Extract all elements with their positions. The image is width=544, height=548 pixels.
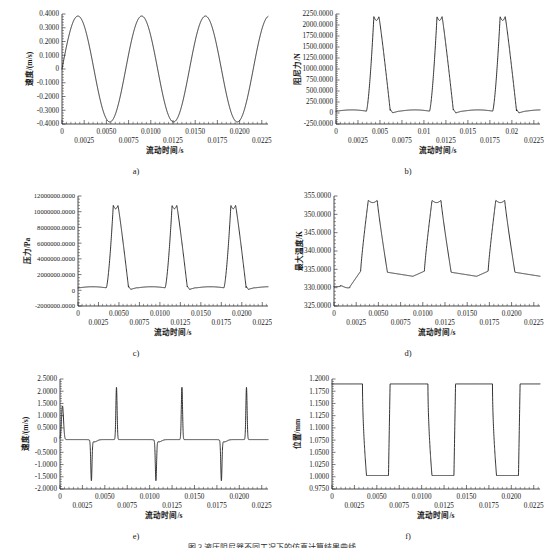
svg-text:0.0075: 0.0075 — [117, 502, 137, 510]
svg-text:0.0125: 0.0125 — [435, 319, 455, 327]
svg-text:1.0500: 1.0500 — [309, 449, 329, 457]
svg-text:流动时间/s: 流动时间/s — [146, 145, 183, 155]
svg-text:0.0075: 0.0075 — [130, 319, 150, 327]
svg-text:0.0075: 0.0075 — [392, 137, 412, 145]
data-curve-f — [332, 384, 540, 476]
svg-text:阻尼力/N: 阻尼力/N — [292, 53, 302, 85]
svg-text:0: 0 — [76, 310, 80, 318]
svg-text:0.0100: 0.0100 — [140, 493, 160, 501]
svg-text:流动时间/s: 流动时间/s — [417, 510, 454, 520]
svg-text:-0.2000: -0.2000 — [37, 93, 60, 101]
svg-text:1750.0000: 1750.0000 — [302, 32, 333, 40]
svg-text:0.5000: 0.5000 — [37, 424, 57, 432]
svg-text:0: 0 — [332, 310, 336, 318]
svg-text:0: 0 — [58, 493, 62, 501]
svg-text:355.0000: 355.0000 — [304, 192, 331, 200]
subplot-a: 0.40000.30000.20000.10000-0.1000-0.2000-… — [0, 0, 272, 183]
svg-text:12000000.0000: 12000000.0000 — [34, 192, 76, 199]
subplot-c-plot: 12000000.000010000000.00008000000.000060… — [0, 180, 272, 363]
svg-text:345.0000: 345.0000 — [304, 229, 331, 237]
svg-text:10000000.0000: 10000000.0000 — [34, 208, 76, 215]
svg-text:-0.5000: -0.5000 — [35, 449, 58, 457]
svg-text:1.1500: 1.1500 — [309, 400, 329, 408]
data-curve-c — [78, 205, 268, 289]
subplot-a-plot: 0.40000.30000.20000.10000-0.1000-0.2000-… — [0, 0, 272, 183]
svg-text:0.0050: 0.0050 — [95, 493, 115, 501]
svg-text:0.0225: 0.0225 — [252, 502, 272, 510]
data-curve-a — [62, 16, 268, 122]
svg-text:0.0125: 0.0125 — [162, 502, 182, 510]
svg-text:-1.5000: -1.5000 — [35, 473, 58, 481]
svg-text:0.0175: 0.0175 — [479, 502, 499, 510]
subplot-b: 2250.00002000.00001750.00001500.00001250… — [272, 0, 544, 183]
svg-text:0.0050: 0.0050 — [109, 310, 129, 318]
svg-text:0.0200: 0.0200 — [232, 310, 252, 318]
svg-text:0.0225: 0.0225 — [524, 137, 544, 145]
svg-text:0.9750: 0.9750 — [309, 485, 329, 493]
svg-text:0.0225: 0.0225 — [524, 319, 544, 327]
svg-text:335.0000: 335.0000 — [304, 266, 331, 274]
svg-text:0.0125: 0.0125 — [434, 502, 454, 510]
svg-text:-0.3000: -0.3000 — [37, 107, 60, 115]
svg-text:8000000.0000: 8000000.0000 — [37, 224, 76, 231]
svg-text:1.0250: 1.0250 — [309, 461, 329, 469]
svg-text:0.0175: 0.0175 — [208, 137, 228, 145]
svg-text:0: 0 — [330, 493, 334, 501]
svg-text:0.0150: 0.0150 — [185, 493, 205, 501]
svg-text:0: 0 — [72, 287, 76, 294]
svg-text:最大温度/K: 最大温度/K — [294, 231, 304, 271]
svg-text:0.0175: 0.0175 — [211, 319, 231, 327]
svg-text:330.0000: 330.0000 — [304, 284, 331, 292]
svg-text:0.01: 0.01 — [418, 128, 431, 136]
svg-text:0.0025: 0.0025 — [73, 502, 93, 510]
svg-text:2000.0000: 2000.0000 — [302, 21, 333, 29]
svg-text:0.0025: 0.0025 — [345, 502, 365, 510]
subplot-e-plot: 2.50002.00001.50001.00000.50000-0.5000-1… — [0, 365, 272, 548]
subplot-d-label: d) — [272, 348, 544, 358]
svg-text:0.0200: 0.0200 — [502, 310, 522, 318]
svg-text:0.0175: 0.0175 — [207, 502, 227, 510]
svg-text:流动时间/s: 流动时间/s — [145, 510, 182, 520]
svg-text:1.0750: 1.0750 — [309, 437, 329, 445]
svg-text:0.0075: 0.0075 — [389, 502, 409, 510]
svg-text:1.2000: 1.2000 — [309, 375, 329, 383]
svg-text:1.1250: 1.1250 — [309, 412, 329, 420]
svg-text:0.0075: 0.0075 — [119, 137, 139, 145]
svg-text:0.0150: 0.0150 — [457, 310, 477, 318]
subplot-d-plot: 355.0000350.0000345.0000340.0000335.0000… — [272, 180, 544, 363]
svg-text:0.02: 0.02 — [506, 128, 519, 136]
svg-text:0: 0 — [334, 128, 338, 136]
svg-text:0.0050: 0.0050 — [97, 128, 117, 136]
svg-text:0.0025: 0.0025 — [346, 319, 366, 327]
svg-text:0.0225: 0.0225 — [524, 502, 544, 510]
svg-text:速度/(m/s): 速度/(m/s) — [24, 51, 34, 86]
subplot-e-label: e) — [0, 531, 272, 541]
svg-text:4000000.0000: 4000000.0000 — [37, 255, 76, 262]
svg-text:0.0050: 0.0050 — [367, 493, 387, 501]
svg-text:-1.0000: -1.0000 — [35, 461, 58, 469]
svg-text:0.0150: 0.0150 — [185, 128, 205, 136]
svg-text:0.4000: 0.4000 — [39, 10, 59, 18]
svg-text:0.0100: 0.0100 — [413, 310, 433, 318]
svg-text:0: 0 — [60, 128, 64, 136]
subplot-f-plot: 1.20001.17501.15001.12501.10001.07501.05… — [272, 365, 544, 548]
svg-text:1.0000: 1.0000 — [309, 473, 329, 481]
svg-text:1500.0000: 1500.0000 — [302, 43, 333, 51]
svg-text:流动时间/s: 流动时间/s — [419, 145, 456, 155]
figure-container: 0.40000.30000.20000.10000-0.1000-0.2000-… — [0, 0, 544, 548]
svg-text:2250.0000: 2250.0000 — [302, 10, 333, 18]
svg-text:0.1000: 0.1000 — [39, 52, 59, 60]
svg-text:250.0000: 250.0000 — [306, 98, 333, 106]
svg-text:340.0000: 340.0000 — [304, 247, 331, 255]
svg-text:-2.0000: -2.0000 — [35, 485, 58, 493]
svg-text:0: 0 — [53, 437, 57, 445]
svg-text:-2000000.0000: -2000000.0000 — [35, 302, 76, 309]
svg-text:0.0150: 0.0150 — [457, 493, 477, 501]
subplot-b-plot: 2250.00002000.00001750.00001500.00001250… — [272, 0, 544, 183]
svg-text:2000000.0000: 2000000.0000 — [37, 271, 76, 278]
svg-text:0.0125: 0.0125 — [170, 319, 190, 327]
svg-text:0.0100: 0.0100 — [150, 310, 170, 318]
svg-text:速度/(m/s): 速度/(m/s) — [20, 416, 30, 451]
svg-text:0.005: 0.005 — [372, 128, 389, 136]
data-curve-d — [334, 200, 540, 287]
